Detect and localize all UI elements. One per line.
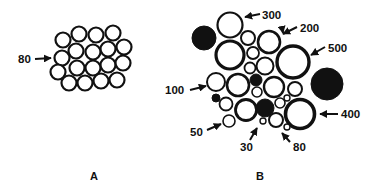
label-100: 100 <box>165 84 184 96</box>
label-200: 200 <box>300 22 319 34</box>
label-500: 500 <box>328 42 347 54</box>
label-50: 50 <box>190 126 203 138</box>
panel-a-annotation-80: 80 <box>18 53 51 65</box>
panel-label-a: A <box>90 170 98 182</box>
label-80-b: 80 <box>293 141 306 153</box>
figure-canvas: 80 A <box>0 0 381 193</box>
label-30: 30 <box>240 141 253 153</box>
panel-a-circles <box>51 26 132 91</box>
label-300: 300 <box>262 9 281 21</box>
panel-label-b: B <box>256 170 264 182</box>
label-80: 80 <box>18 53 31 65</box>
label-400: 400 <box>341 108 360 120</box>
panel-b-circles <box>192 13 343 131</box>
